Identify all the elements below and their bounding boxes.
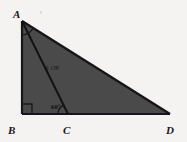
angle-measure-label-c: 60° bbox=[51, 104, 61, 111]
triangle-diagram-canvas bbox=[0, 0, 187, 142]
side-length-label-ac: 6 cm bbox=[45, 65, 59, 72]
geometry-figure: A B C D 6 cm 60° bbox=[0, 0, 187, 142]
paper-speck bbox=[40, 11, 42, 14]
vertex-label-b: B bbox=[8, 125, 15, 136]
vertex-label-c: C bbox=[63, 125, 70, 136]
vertex-label-a: A bbox=[13, 9, 20, 20]
vertex-label-d: D bbox=[166, 125, 174, 136]
